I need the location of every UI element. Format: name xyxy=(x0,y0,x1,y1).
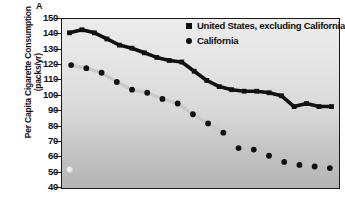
us-data-point xyxy=(217,84,222,89)
us-data-point xyxy=(267,90,272,95)
california-data-point xyxy=(236,145,242,151)
chart-figure: A Per Capita Cigarette Consumption (pack… xyxy=(0,0,345,201)
us-data-point xyxy=(142,50,147,55)
us-data-point xyxy=(254,89,259,94)
legend-label: California xyxy=(197,36,238,46)
california-data-point xyxy=(114,79,120,85)
us-data-point xyxy=(80,27,85,32)
us-data-point xyxy=(192,69,197,74)
california-data-point xyxy=(129,87,135,93)
us-data-point xyxy=(304,101,309,106)
california-data-point xyxy=(205,121,211,127)
california-data-point xyxy=(68,62,74,68)
california-data-point xyxy=(281,159,287,165)
california-data-point xyxy=(175,101,181,107)
us-data-point xyxy=(167,58,172,63)
california-data-point xyxy=(266,153,272,159)
california-data-point xyxy=(83,65,89,71)
legend-item: United States, excluding California xyxy=(186,20,345,32)
us-data-point xyxy=(154,55,159,60)
legend-label: United States, excluding California xyxy=(197,21,345,31)
california-data-point xyxy=(297,162,303,168)
california-data-point xyxy=(312,164,318,170)
california-data-point xyxy=(99,70,105,76)
california-data-point xyxy=(327,165,333,171)
us-data-point xyxy=(117,43,122,48)
us-data-point xyxy=(179,60,184,65)
y-axis-title-line1: Per Capita Cigarette Consumption xyxy=(23,6,33,138)
california-data-point xyxy=(144,90,150,96)
us-data-point xyxy=(329,104,334,109)
us-data-point xyxy=(92,30,97,35)
california-data-point xyxy=(160,96,166,102)
legend-circle-icon xyxy=(186,38,192,44)
legend-square-icon xyxy=(186,23,192,29)
california-data-point xyxy=(190,111,196,117)
chart-legend: United States, excluding CaliforniaCalif… xyxy=(186,20,345,50)
california-data-point xyxy=(220,130,226,136)
legend-item: California xyxy=(186,35,345,47)
us-data-point xyxy=(105,37,110,42)
us-data-point xyxy=(242,89,247,94)
us-data-point xyxy=(317,104,322,109)
us-data-point xyxy=(279,93,284,98)
y-axis-tick-labels: 150140130120110100908070605040 xyxy=(36,0,58,201)
california-data-point xyxy=(251,147,257,153)
us-data-point xyxy=(292,104,297,109)
us-data-point xyxy=(229,87,234,92)
us-data-point xyxy=(129,46,134,51)
stray-marker-icon xyxy=(66,166,73,173)
us-data-point xyxy=(67,30,72,35)
us-data-point xyxy=(204,78,209,83)
